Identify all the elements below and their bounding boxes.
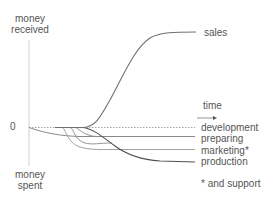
money-spent-line1: money <box>8 169 52 180</box>
money-spent-line2: spent <box>8 180 52 191</box>
marketing-line <box>55 128 195 150</box>
preparing-line <box>29 128 195 137</box>
preparing-label: preparing <box>201 133 243 144</box>
sales-line <box>55 32 196 128</box>
time-arrow-icon <box>213 116 217 120</box>
money-received-label: money received <box>8 13 52 35</box>
time-label: time <box>203 100 222 111</box>
production-label: production <box>201 156 248 167</box>
sales-label: sales <box>204 27 227 38</box>
zero-label: 0 <box>10 121 16 132</box>
money-received-line2: received <box>8 24 52 35</box>
money-received-line1: money <box>8 13 52 24</box>
marketing-label: marketing* <box>201 145 249 156</box>
preparing-dip-curve <box>60 128 112 137</box>
development-label: development <box>201 122 258 133</box>
money-spent-label: money spent <box>8 169 52 191</box>
footnote-label: * and support <box>201 178 261 189</box>
